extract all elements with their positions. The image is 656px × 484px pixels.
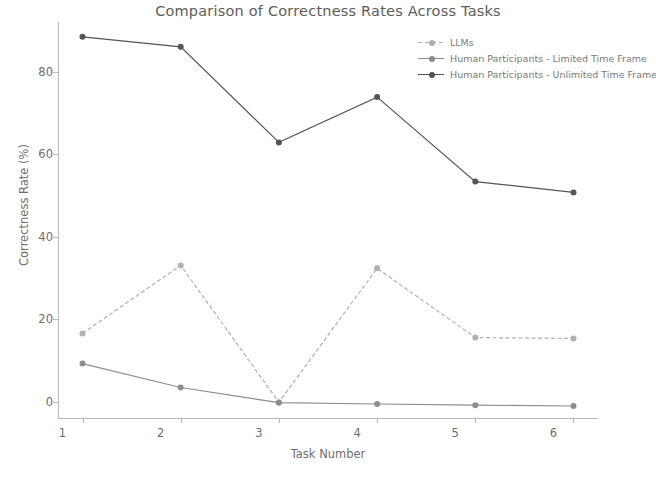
legend-label: Human Participants - Limited Time Frame — [450, 53, 647, 64]
chart-figure: Comparison of Correctness Rates Across T… — [0, 0, 656, 484]
legend-swatch-icon — [418, 54, 444, 64]
series-0 — [80, 262, 577, 405]
chart-legend: LLMsHuman Participants - Limited Time Fr… — [418, 36, 656, 84]
data-point — [374, 94, 380, 100]
data-point — [178, 44, 184, 50]
data-point — [374, 401, 380, 407]
data-point — [80, 361, 86, 367]
data-point — [571, 403, 577, 409]
legend-entry[interactable]: Human Participants - Unlimited Time Fram… — [418, 68, 656, 81]
legend-entry[interactable]: LLMs — [418, 36, 656, 49]
data-point — [178, 385, 184, 391]
data-point — [80, 34, 86, 40]
data-point — [472, 402, 478, 408]
data-point — [374, 265, 380, 271]
legend-label: Human Participants - Unlimited Time Fram… — [450, 69, 656, 80]
data-point — [178, 262, 184, 268]
series-line — [83, 364, 574, 406]
data-point — [571, 189, 577, 195]
data-point — [80, 330, 86, 336]
legend-swatch-icon — [418, 70, 444, 80]
legend-label: LLMs — [450, 37, 474, 48]
data-point — [571, 335, 577, 341]
legend-entry[interactable]: Human Participants - Limited Time Frame — [418, 52, 656, 65]
data-point — [276, 139, 282, 145]
data-point — [472, 335, 478, 341]
data-point — [276, 400, 282, 406]
data-point — [472, 179, 478, 185]
legend-swatch-icon — [418, 38, 444, 48]
series-1 — [80, 361, 577, 409]
